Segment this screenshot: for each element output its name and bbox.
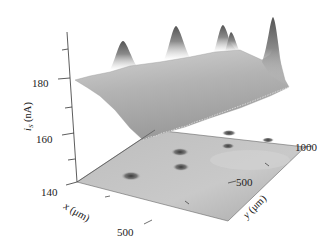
contour-spot (121, 172, 141, 181)
x-axis: 500 x (μm) (61, 196, 152, 238)
contour-spot (222, 143, 235, 149)
contour-spot (171, 148, 189, 156)
contour-projection-plane (77, 130, 305, 221)
peak (110, 41, 138, 70)
x-tick-label: 500 (117, 226, 134, 238)
contour-spot (173, 163, 190, 171)
surface-plot: 180 160 140 iS (nA) 500 x (μm) 500 1000 … (0, 0, 333, 247)
surface-mesh (75, 45, 289, 140)
peak (164, 26, 190, 60)
z-tick-label: 180 (32, 77, 49, 89)
y-tick-label: 500 (236, 176, 253, 188)
z-tick-label: 160 (36, 133, 53, 145)
contour-spot (222, 130, 236, 136)
x-axis-title: x (μm) (61, 200, 93, 225)
y-tick-label: 1000 (295, 141, 318, 153)
z-axis-title: iS (nA) (22, 102, 35, 131)
contour-spot (262, 138, 274, 143)
z-tick-label: 140 (41, 186, 58, 198)
